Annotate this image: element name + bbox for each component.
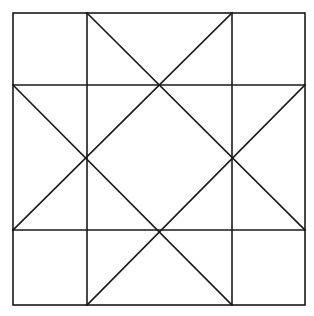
outer-square [13,13,305,305]
diagonal-line [13,13,232,230]
quilt-block-diagram [0,0,314,316]
diagonal-line [87,85,305,305]
diagonal-line [87,13,305,230]
diagonal-line [13,85,232,305]
